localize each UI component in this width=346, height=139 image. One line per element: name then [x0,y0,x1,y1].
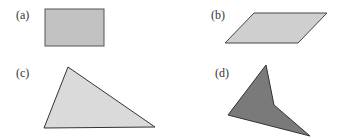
panel-d-label: (d) [215,66,229,80]
parallelogram-shape [225,13,327,43]
panel-b-label: (b) [211,8,225,22]
shapes-figure: (a) (b) (c) (d) [0,0,346,139]
panel-c-label: (c) [16,66,29,80]
panel-a-label: (a) [16,8,29,22]
concave-quadrilateral-shape [228,65,310,136]
rectangle-shape [45,9,104,46]
triangle-shape [44,67,155,128]
